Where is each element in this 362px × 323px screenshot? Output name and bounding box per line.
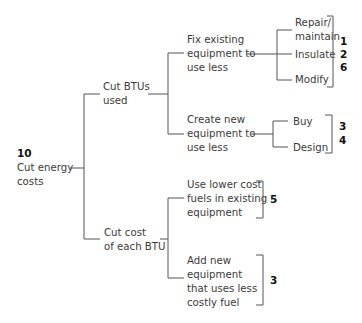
fix-label-line3: use less xyxy=(187,62,228,73)
option-modify: Modify xyxy=(295,74,329,85)
fix-label-line2: equipment to xyxy=(187,48,256,59)
fix-label-line1: Fix existing xyxy=(187,34,244,45)
root-label-line1: Cut energy xyxy=(17,162,73,173)
create-label-line1: Create new xyxy=(187,114,245,125)
option-buy: Buy xyxy=(293,116,312,127)
branch2-label-line2: of each BTU xyxy=(104,241,166,252)
lower-fuel-label-line3: equipment xyxy=(187,207,242,218)
option-repair-line1: Repair/ xyxy=(295,17,332,28)
create-number-1: 3 xyxy=(339,120,346,132)
add-equipment-bracket xyxy=(256,255,263,305)
node-fix-existing: Fix existing equipment to use less xyxy=(187,34,256,73)
root-label-line2: costs xyxy=(17,176,43,187)
lower-fuel-number: 5 xyxy=(270,193,277,205)
node-add-new-equipment: Add new equipment that uses less costly … xyxy=(187,255,257,308)
lower-fuel-label-line2: fuels in existing xyxy=(187,193,267,204)
node-create-new: Create new equipment to use less xyxy=(187,114,256,153)
tree-canvas: 10 Cut energy costs Cut BTUs used Fix ex… xyxy=(0,0,362,323)
option-design: Design xyxy=(293,142,328,153)
energy-cost-tree-diagram: 10 Cut energy costs Cut BTUs used Fix ex… xyxy=(0,0,362,323)
fix-number-2: 2 xyxy=(340,48,347,60)
fix-number-1: 1 xyxy=(340,35,347,47)
branch1-label-line1: Cut BTUs xyxy=(103,81,150,92)
create-label-line2: equipment to xyxy=(187,128,256,139)
branch1-label-line2: used xyxy=(103,95,128,106)
root-number: 10 xyxy=(17,147,32,159)
branch-cut-cost: Cut cost of each BTU xyxy=(104,227,166,252)
option-insulate: Insulate xyxy=(295,49,336,60)
fix-number-3: 6 xyxy=(340,61,347,73)
node-lower-cost-fuels: Use lower cost fuels in existing equipme… xyxy=(187,179,267,218)
create-number-2: 4 xyxy=(339,134,346,146)
branch-cut-btus: Cut BTUs used xyxy=(103,81,150,106)
add-equipment-number: 3 xyxy=(270,274,277,286)
lower-fuel-label-line1: Use lower cost xyxy=(187,179,262,190)
add-label-line1: Add new xyxy=(187,255,231,266)
create-label-line3: use less xyxy=(187,142,228,153)
add-label-line2: equipment xyxy=(187,269,242,280)
root-node: 10 Cut energy costs xyxy=(17,147,73,187)
add-label-line4: costly fuel xyxy=(187,297,239,308)
branch2-label-line1: Cut cost xyxy=(104,227,146,238)
add-label-line3: that uses less xyxy=(187,283,257,294)
